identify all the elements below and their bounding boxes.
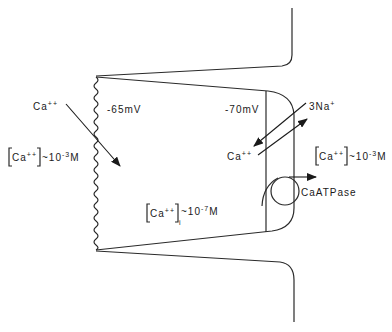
- caatpase-pump-icon: [271, 177, 299, 205]
- svg-text:Ca++: Ca++: [12, 151, 37, 163]
- lower-cell-membrane: [96, 251, 294, 322]
- wavy-membrane: [94, 77, 98, 250]
- svg-text:i: i: [179, 219, 182, 226]
- svg-text:Ca++: Ca++: [150, 207, 175, 219]
- ca-exchanger-label: Ca++: [227, 150, 252, 162]
- potential-left-label: -65mV: [107, 104, 141, 115]
- svg-text:~10-3M: ~10-3M: [349, 150, 387, 162]
- ca-extracellular-label: Ca++: [33, 100, 58, 112]
- potential-right-label: -70mV: [225, 104, 259, 115]
- conc-left-label: Ca++ ~10-3M: [9, 148, 80, 166]
- ca-out-arrow: [254, 103, 306, 146]
- conc-right-label: Ca++ ~10-3M: [316, 147, 387, 165]
- na-exchanger-label: 3Na+: [309, 100, 335, 112]
- conc-inner-label: Ca++ i ~10-7M: [147, 204, 219, 226]
- caatpase-label: CaATPase: [301, 187, 357, 198]
- svg-text:~10-3M: ~10-3M: [42, 151, 80, 163]
- junction-membrane-outline: [96, 77, 294, 250]
- upper-cell-membrane: [96, 8, 292, 76]
- svg-text:Ca++: Ca++: [319, 150, 344, 162]
- diagram-canvas: Ca++ -65mV -70mV Ca++ ~10-3M Ca++ i ~10-…: [0, 0, 392, 332]
- svg-text:~10-7M: ~10-7M: [181, 205, 219, 217]
